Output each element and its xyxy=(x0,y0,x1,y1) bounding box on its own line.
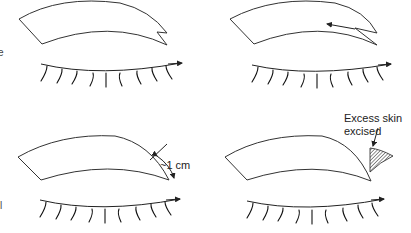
eyelid-skin-flap xyxy=(19,1,167,45)
eyelashes xyxy=(252,67,383,88)
lash-line xyxy=(252,64,391,88)
edge-text-bottom: l xyxy=(0,200,2,211)
excess-skin-label-line2: excised xyxy=(344,125,381,137)
eyelashes xyxy=(247,203,378,224)
eyelash xyxy=(283,72,288,85)
eyelid-skin-flap xyxy=(18,136,169,180)
eyelash xyxy=(268,70,273,84)
eyelash xyxy=(137,71,141,84)
lash-line xyxy=(41,63,182,87)
eyelid-surgery-diagram: e l ~1 cm Exces xyxy=(0,0,411,233)
eyelash xyxy=(252,67,258,82)
edge-text-top: e xyxy=(0,47,4,58)
eyelash xyxy=(89,209,92,222)
eyelash xyxy=(343,208,347,221)
panel-top-right xyxy=(230,1,391,88)
excised-skin-wedge xyxy=(370,148,393,172)
eyelash xyxy=(152,68,157,81)
eyelash xyxy=(165,202,171,215)
eyelash xyxy=(136,207,140,220)
eyelash xyxy=(41,66,47,81)
excess-skin-label-line1: Excess skin xyxy=(344,112,402,124)
eyelashes xyxy=(41,66,172,87)
eyelid-skin-flap xyxy=(225,136,371,181)
eyelash xyxy=(119,73,122,86)
measurement-label: ~1 cm xyxy=(160,159,190,171)
eyelash xyxy=(118,209,121,222)
lash-line xyxy=(40,199,180,223)
panel-top-left xyxy=(19,1,182,87)
lash-line xyxy=(247,199,384,224)
eyelash xyxy=(247,203,253,218)
eyelash xyxy=(90,73,93,86)
eyelash xyxy=(377,67,383,80)
eyelash xyxy=(151,204,156,217)
eyelash xyxy=(325,210,328,223)
eyelash xyxy=(263,206,268,220)
eyelash xyxy=(372,203,378,216)
eyelash xyxy=(330,74,333,87)
eyelash xyxy=(301,74,304,87)
panel-bottom-right: Excess skin excised xyxy=(225,112,402,224)
eyelash xyxy=(71,207,76,220)
eyelash xyxy=(296,210,299,223)
eyelash xyxy=(278,208,283,221)
lid-margin-arrow xyxy=(168,63,182,64)
eyelash xyxy=(358,205,363,218)
eyelash xyxy=(363,69,368,82)
eyelid-skin-flap xyxy=(230,1,377,45)
eyelashes xyxy=(40,202,171,223)
eyelash xyxy=(166,66,172,79)
eyelash xyxy=(57,69,62,83)
panel-bottom-left: ~1 cm xyxy=(18,136,190,223)
eyelash xyxy=(72,71,77,84)
lid-margin-arrow xyxy=(378,64,391,65)
eyelash xyxy=(40,202,46,217)
eyelash xyxy=(56,205,61,219)
eyelash xyxy=(348,72,352,85)
